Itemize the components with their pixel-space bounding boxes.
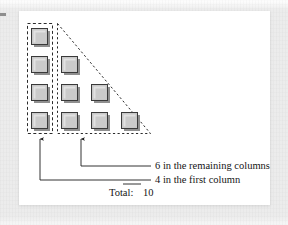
square-group-row-4	[32, 113, 141, 132]
label-total-value: 10	[143, 188, 154, 199]
square-group-row-2	[32, 57, 81, 76]
square-group-row-3	[32, 85, 111, 104]
label-first-column: 4 in the first column	[155, 175, 240, 186]
square-r4-c2	[62, 113, 81, 132]
square-r3-c2	[62, 85, 81, 104]
figure-canvas: 6 in the remaining columns 4 in the firs…	[19, 11, 270, 205]
square-r3-c1	[32, 85, 51, 104]
square-r4-c1	[32, 113, 51, 132]
square-r3-c3	[92, 85, 111, 104]
square-r4-c3	[92, 113, 111, 132]
square-r4-c4	[122, 113, 141, 132]
square-r2-c1	[32, 57, 51, 76]
label-remaining-columns: 6 in the remaining columns	[155, 161, 270, 172]
square-group-row-1	[32, 29, 51, 48]
left-edge-marker	[0, 13, 6, 16]
square-r2-c2	[62, 57, 81, 76]
figure-root: 6 in the remaining columns 4 in the firs…	[0, 0, 288, 225]
square-r1-c1	[32, 29, 51, 48]
label-total-prefix: Total:	[109, 188, 133, 199]
